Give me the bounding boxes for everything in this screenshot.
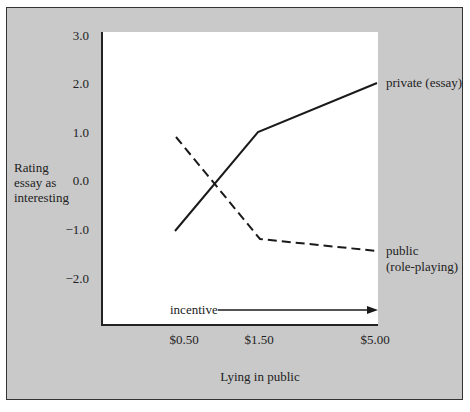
legend-private: private (essay) — [386, 75, 462, 91]
legend-public-line-1: public — [386, 243, 458, 259]
incentive-label: incentive — [170, 303, 218, 316]
chart-lines — [0, 0, 470, 412]
legend-public-line-2: (role-playing) — [386, 259, 458, 275]
incentive-arrowhead-icon — [367, 306, 378, 314]
series-private-line — [175, 83, 377, 231]
legend-public: public (role-playing) — [386, 243, 458, 275]
